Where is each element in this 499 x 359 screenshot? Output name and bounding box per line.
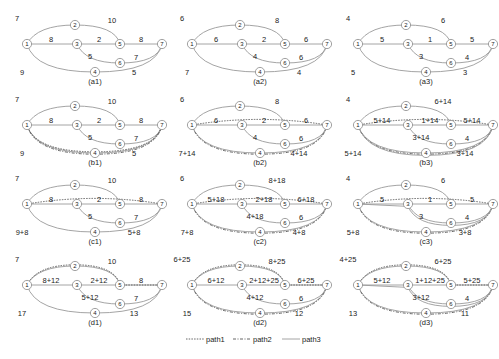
path3-line — [358, 204, 493, 225]
node-2: 2 — [70, 101, 79, 110]
node-3: 3 — [72, 120, 81, 129]
edge-weight-6-7: 7 — [134, 294, 138, 303]
node-1: 1 — [187, 199, 196, 208]
panel-caption: (d1) — [88, 318, 102, 327]
node-6: 6 — [115, 218, 124, 227]
edge-weight-1-3: 5+18 — [208, 195, 225, 204]
legend-label: path3 — [302, 335, 321, 344]
node-2: 2 — [401, 261, 410, 270]
node-2: 2 — [235, 180, 244, 189]
node-6: 6 — [446, 218, 455, 227]
node-2: 2 — [70, 180, 79, 189]
node-2: 2 — [401, 20, 410, 29]
edge-weight-4-7: 5 — [132, 149, 136, 158]
edge-weight-1-2: 7 — [15, 95, 19, 104]
node-4: 4 — [421, 308, 430, 317]
edge-3-6 — [77, 204, 120, 223]
edge-weight-3-5: 2+12+25 — [249, 276, 279, 285]
edge-weight-6-7: 4 — [465, 294, 469, 303]
edge-weight-1-2: 6 — [180, 95, 184, 104]
edge-3-6 — [77, 125, 120, 144]
node-4: 4 — [90, 67, 99, 76]
legend-label: path1 — [206, 335, 225, 344]
node-7: 7 — [488, 39, 497, 48]
node-6: 6 — [280, 58, 289, 67]
edge-weight-1-3: 8 — [49, 35, 53, 44]
edge-weight-1-2: 6+25 — [174, 255, 191, 264]
edge-weight-3-6: 5+12 — [82, 293, 99, 302]
node-5: 5 — [280, 199, 289, 208]
node-4: 4 — [255, 67, 264, 76]
node-3: 3 — [237, 199, 246, 208]
edge-weight-6-7: 7 — [134, 53, 138, 62]
node-3: 3 — [403, 280, 412, 289]
panel-c2: 65+187+88+182+184+184+86+1861234567(c2) — [180, 174, 332, 246]
panel-c1: 789+810255+8871234567(c1) — [15, 174, 167, 246]
edge-6-7 — [120, 44, 162, 63]
edge-weight-3-5: 1+14 — [422, 116, 439, 125]
node-2: 2 — [235, 20, 244, 29]
node-2: 2 — [70, 20, 79, 29]
edge-weight-4-7: 3 — [463, 68, 467, 77]
edge-weight-3-5: 2 — [262, 116, 266, 125]
edge-weight-5-7: 8 — [139, 116, 143, 125]
edge-weight-4-7: 4+8 — [293, 228, 306, 237]
edge-weight-3-5: 2 — [97, 116, 101, 125]
edge-weight-4-7: 12 — [295, 309, 303, 318]
node-6: 6 — [446, 58, 455, 67]
edge-6-7 — [285, 125, 327, 144]
node-4: 4 — [255, 227, 264, 236]
node-1: 1 — [22, 199, 31, 208]
edge-weight-3-5: 2 — [97, 35, 101, 44]
node-1: 1 — [353, 199, 362, 208]
edge-weight-1-3: 6+12 — [208, 276, 225, 285]
node-1: 1 — [187, 280, 196, 289]
edge-weight-3-6: 3+12 — [413, 293, 430, 302]
edge-6-7 — [120, 285, 162, 304]
edge-weight-2-5: 6+25 — [435, 257, 452, 266]
node-3: 3 — [403, 39, 412, 48]
edge-weight-2-5: 10 — [108, 16, 116, 25]
edge-weight-1-4: 9+8 — [16, 228, 29, 237]
edge-weight-2-5: 8 — [275, 97, 279, 106]
edge-weight-6-7: 7 — [134, 213, 138, 222]
edge-4-7 — [426, 44, 493, 72]
node-7: 7 — [157, 120, 166, 129]
edge-6-7 — [120, 125, 162, 144]
node-6: 6 — [280, 218, 289, 227]
edge-3-6 — [77, 44, 120, 63]
edge-3-6 — [408, 44, 451, 63]
edge-weight-5-7: 5 — [470, 195, 474, 204]
edge-6-7 — [451, 285, 493, 304]
edge-weight-6-7: 4 — [465, 134, 469, 143]
edge-weight-2-5: 10 — [108, 257, 116, 266]
edge-weight-1-2: 7 — [15, 14, 19, 23]
edge-4-7 — [95, 44, 162, 72]
node-3: 3 — [72, 199, 81, 208]
node-6: 6 — [115, 299, 124, 308]
node-7: 7 — [322, 199, 331, 208]
edge-weight-1-4: 9 — [20, 68, 24, 77]
edge-1-4 — [27, 204, 95, 232]
node-3: 3 — [237, 120, 246, 129]
legend-item-path2: path2 — [233, 335, 272, 344]
node-5: 5 — [115, 280, 124, 289]
edge-weight-2-5: 10 — [108, 97, 116, 106]
legend-item-path3: path3 — [282, 335, 321, 344]
edge-weight-1-2: 7 — [15, 255, 19, 264]
edge-weight-1-4: 7+8 — [181, 228, 194, 237]
panel-caption: (c3) — [420, 237, 433, 246]
node-7: 7 — [488, 199, 497, 208]
edge-4-7 — [260, 285, 327, 313]
edge-weight-3-6: 3+14 — [413, 133, 430, 142]
node-5: 5 — [280, 280, 289, 289]
node-1: 1 — [22, 120, 31, 129]
edge-4-7 — [95, 285, 162, 313]
edge-weight-1-2: 4 — [346, 95, 350, 104]
legend: path1path2path3 — [186, 335, 321, 344]
node-5: 5 — [446, 280, 455, 289]
edge-weight-6-7: 6 — [299, 213, 303, 222]
edge-weight-3-6: 5 — [88, 133, 92, 142]
edge-1-4 — [358, 44, 426, 72]
edge-3-6 — [408, 204, 451, 223]
